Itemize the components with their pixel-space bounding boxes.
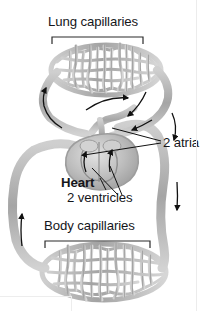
diagram-canvas: Lung capillaries 2 atria Heart 2 ventric… (0, 0, 214, 311)
arrow-left-outer-up (21, 214, 22, 246)
label-lung-capillaries: Lung capillaries (48, 15, 138, 28)
arrow-top-right-to-lung (86, 98, 128, 110)
page-edge-bottom-left (0, 296, 72, 311)
body-capillary-bed (42, 244, 166, 300)
label-2-atria: 2 atria (163, 136, 199, 149)
arrow-right-outer-down-2 (177, 182, 178, 210)
label-body-capillaries: Body capillaries (44, 219, 135, 232)
label-heart: Heart (61, 176, 94, 189)
lung-capillary-bed (51, 44, 161, 95)
label-2-ventricles: 2 ventricles (67, 191, 133, 204)
page-edge-right (196, 0, 197, 311)
circulatory-diagram-svg (0, 0, 214, 311)
